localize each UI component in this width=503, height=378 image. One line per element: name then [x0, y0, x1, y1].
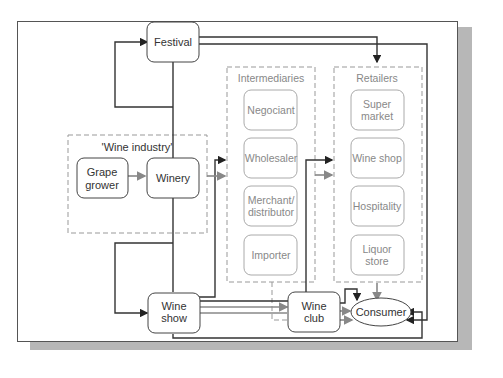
liquor-store-label-2: store — [365, 255, 389, 267]
intermediaries-title: Intermediaries — [238, 72, 305, 84]
wholesaler-label: Wholesaler — [245, 152, 298, 164]
grape-grower-label-2: grower — [85, 179, 119, 191]
consumer-label: Consumer — [356, 306, 407, 318]
wine-club-label-1: Wine — [301, 300, 326, 312]
liquor-store-label-1: Liquor — [362, 243, 392, 255]
festival-to-retailers — [198, 37, 377, 62]
importer-label: Importer — [251, 249, 291, 261]
negociant-label: Negociant — [247, 104, 294, 116]
supermarket-label-2: market — [361, 110, 393, 122]
merchant-label-1: Merchant/ — [248, 194, 295, 206]
grape-grower-node — [77, 158, 128, 198]
wine-show-label-2: show — [161, 312, 187, 324]
wine-show-label-1: Wine — [161, 300, 186, 312]
festival-to-consumer — [198, 44, 427, 320]
wine-distribution-diagram: Festival Winery Grape grower Wine show W… — [0, 0, 503, 378]
wine-show-to-retailers — [198, 160, 332, 301]
merchant-label-2: distributor — [248, 206, 295, 218]
hospitality-label: Hospitality — [353, 200, 402, 212]
wine-club-label-2: club — [304, 312, 324, 324]
winery-label: Winery — [156, 172, 191, 184]
supermarket-label-1: Super — [363, 98, 392, 110]
retailers-title: Retailers — [356, 72, 397, 84]
festival-label: Festival — [154, 36, 192, 48]
wine-club-to-consumer — [340, 289, 357, 303]
wine-shop-label: Wine shop — [352, 152, 402, 164]
wine-industry-title: 'Wine industry' — [102, 141, 173, 153]
wine-show-to-intermediaries — [198, 160, 225, 297]
grape-grower-label-1: Grape — [87, 166, 118, 178]
